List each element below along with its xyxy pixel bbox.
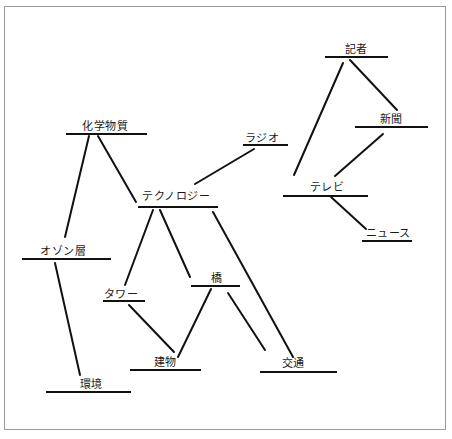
link-bridge-traffic [228,293,265,350]
node-label-radio: ラジオ [245,133,280,145]
node-label-reporter: 記者 [345,44,368,56]
link-technology-bridge [160,210,190,277]
node-label-ozone: オゾン層 [40,246,86,258]
link-tower-building [129,305,174,352]
link-newspaper-tv [335,134,383,176]
node-label-chemicals: 化学物質 [82,121,128,133]
node-label-building: 建物 [154,357,177,369]
node-label-newspaper: 新聞 [380,114,403,126]
link-bridge-building [178,289,211,357]
link-technology-traffic [213,212,293,357]
link-reporter-tv [294,63,343,175]
node-label-technology: テクノロジー [142,191,210,203]
node-label-traffic: 交通 [282,358,305,370]
node-label-environment: 環境 [80,379,103,391]
link-tv-news [331,197,366,229]
concept-map-canvas [0,0,452,439]
link-reporter-newspaper [350,60,397,110]
node-label-bridge: 橋 [211,273,223,285]
node-label-tv: テレビ [310,182,345,194]
link-chemicals-technology [98,136,136,202]
link-ozone-environment [55,263,80,375]
link-chemicals-ozone [65,136,89,237]
link-technology-radio [195,149,254,184]
node-label-tower: タワー [104,289,139,301]
node-label-news: ニュース [366,228,411,240]
link-technology-tower [125,210,153,285]
